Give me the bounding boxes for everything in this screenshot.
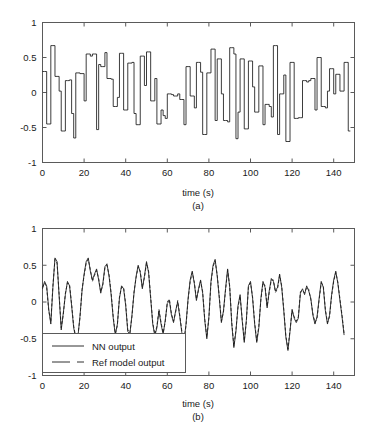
subplot-a-canvas: 020406080100120140 10.50-0.5-1 time (s) …	[0, 0, 373, 215]
xtick-label: 20	[79, 380, 90, 391]
legend-label-ref-model-output: Ref model output	[92, 357, 165, 368]
legend-label-nn-output: NN output	[92, 341, 135, 352]
ytick-label: -1	[28, 157, 36, 168]
ytick-label: 0.5	[23, 260, 36, 271]
xtick-label: 100	[243, 167, 259, 178]
ytick-label: -1	[28, 370, 36, 381]
ytick-label: 0	[31, 87, 36, 98]
xtick-label: 40	[120, 167, 131, 178]
subplot-b-caption: (b)	[192, 411, 204, 422]
xtick-label: 40	[120, 380, 131, 391]
subplot-a-caption: (a)	[192, 200, 204, 211]
figure-root: 020406080100120140 10.50-0.5-1 time (s) …	[0, 0, 373, 430]
xtick-label: 140	[326, 167, 342, 178]
ytick-label: -0.5	[20, 333, 36, 344]
ytick-label: 1	[31, 223, 36, 234]
subplot-b-canvas: NN output Ref model output 0204060801001…	[0, 215, 373, 430]
ytick-label: 0.5	[23, 52, 36, 63]
xtick-label: 80	[204, 380, 215, 391]
xtick-label: 140	[326, 380, 342, 391]
xtick-label: 20	[79, 167, 90, 178]
subplot-b: NN output Ref model output 0204060801001…	[0, 215, 373, 430]
ytick-label: 0	[31, 296, 36, 307]
xtick-label: 120	[284, 380, 300, 391]
subplot-a: 020406080100120140 10.50-0.5-1 time (s) …	[0, 0, 373, 215]
xtick-label: 120	[284, 167, 300, 178]
subplot-a-xaxis-title: time (s)	[182, 187, 214, 198]
xtick-label: 100	[243, 380, 259, 391]
xtick-label: 60	[162, 167, 173, 178]
legend[interactable]: NN output Ref model output	[43, 334, 186, 373]
subplot-b-xaxis-title: time (s)	[182, 398, 214, 409]
xtick-label: 0	[40, 380, 45, 391]
xtick-label: 60	[162, 380, 173, 391]
xtick-label: 0	[40, 167, 45, 178]
ytick-label: -0.5	[20, 122, 36, 133]
ytick-label: 1	[31, 17, 36, 28]
xtick-label: 80	[204, 167, 215, 178]
